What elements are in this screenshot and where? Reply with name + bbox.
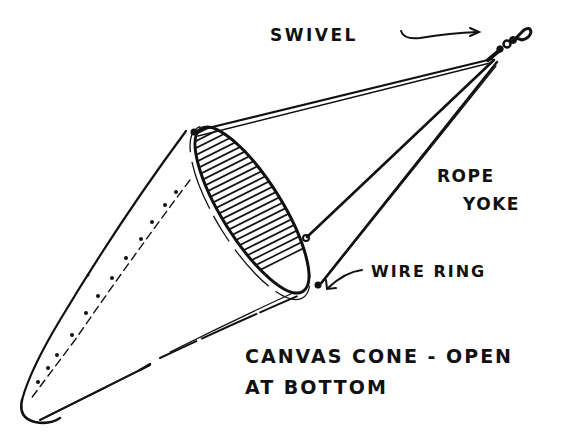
wire-ring [140,60,440,330]
label-swivel: SWIVEL [270,27,358,44]
label-yoke: YOKE [463,196,520,213]
label-canvas-cone: CANVAS CONE - OPEN [245,347,513,366]
label-rope: ROPE [437,168,495,185]
seam-stitches [36,190,178,384]
label-open-at-bottom: AT BOTTOM [245,378,388,397]
wire-ring-pointer-arrow [326,270,362,289]
swivel-pointer-arrow [401,28,479,38]
swivel-icon [488,28,531,60]
diagram-canvas: SWIVEL ROPE YOKE WIRE RING CANVAS CONE -… [0,0,569,448]
label-wire-ring: WIRE RING [371,264,486,280]
